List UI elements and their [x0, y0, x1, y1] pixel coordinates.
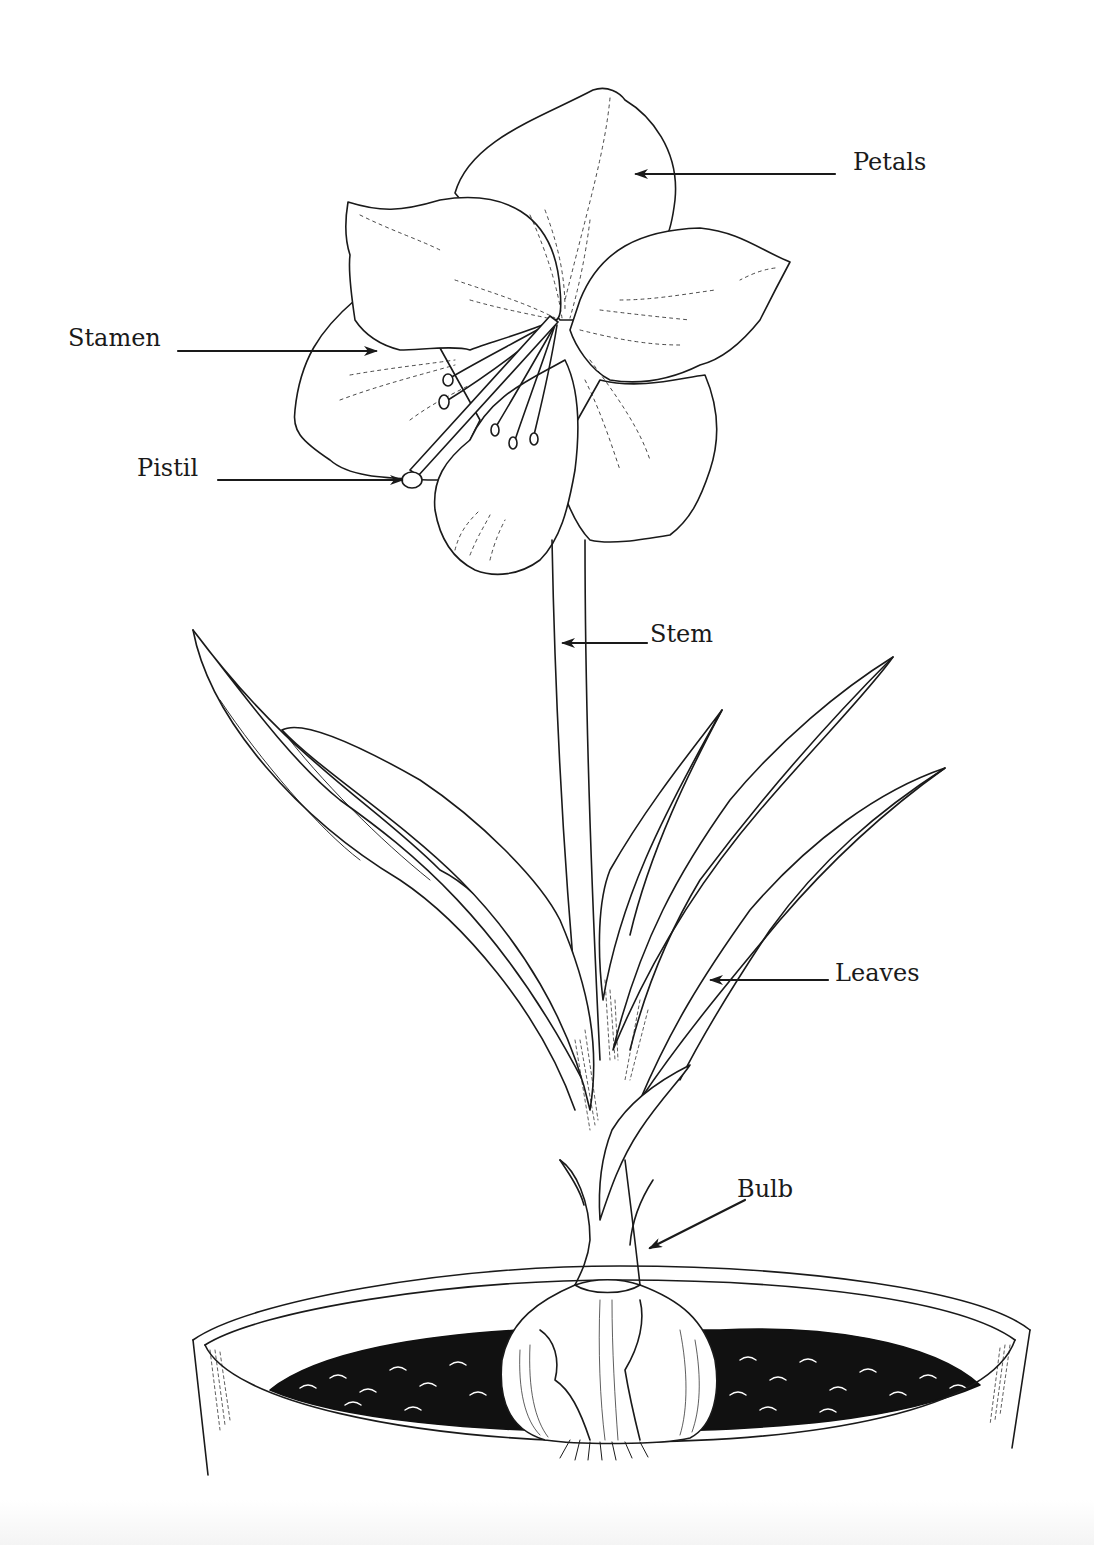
plant-diagram: Petals Stamen Pistil Stem Leaves Bulb — [0, 0, 1094, 1545]
bulb-arrow — [650, 1200, 745, 1248]
label-bulb: Bulb — [737, 1177, 793, 1201]
label-stem: Stem — [650, 622, 713, 646]
label-leaves: Leaves — [835, 961, 920, 985]
petal-lower-right — [555, 375, 717, 542]
scan-bottom-edge — [0, 1500, 1094, 1545]
bulb — [501, 1280, 716, 1460]
leaves — [193, 630, 945, 1220]
label-stamen: Stamen — [68, 326, 161, 350]
label-pistil: Pistil — [137, 456, 198, 480]
flower — [294, 88, 790, 574]
amaryllis-illustration — [0, 0, 1094, 1545]
petal-upper-left — [346, 198, 561, 350]
label-petals: Petals — [853, 150, 926, 174]
